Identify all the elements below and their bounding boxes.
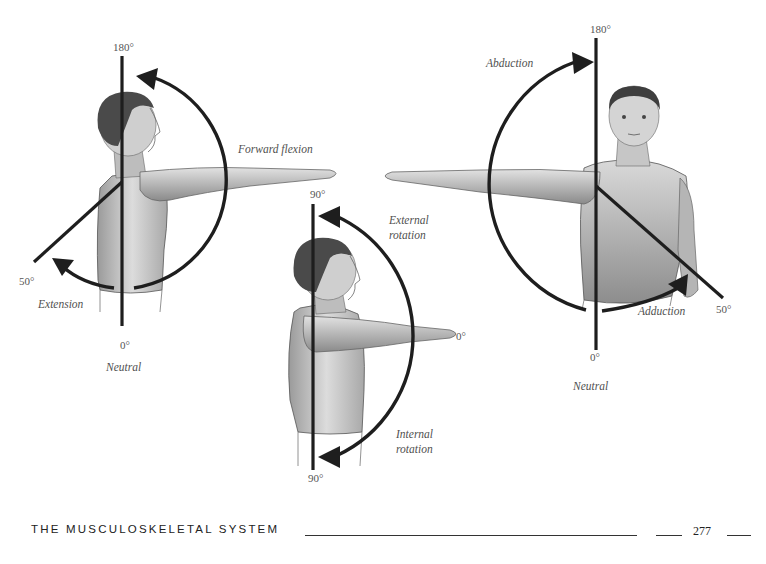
right-top-degree-label: 180° xyxy=(590,24,611,35)
external-rotation-label-line2: rotation xyxy=(389,230,426,242)
right-figure-arm xyxy=(385,169,600,204)
internal-rotation-arrowhead-icon xyxy=(318,446,340,468)
abduction-arrowhead-icon xyxy=(572,52,594,74)
left-top-degree-label: 180° xyxy=(113,42,134,53)
shoulder-range-of-motion-figure xyxy=(0,0,766,564)
forward-flexion-label: Forward flexion xyxy=(238,144,313,156)
middle-figure-arm xyxy=(303,316,456,352)
section-title: THE MUSCULOSKELETAL SYSTEM xyxy=(31,523,279,535)
footer-dash-left xyxy=(656,535,682,536)
right-neutral-label: Neutral xyxy=(573,381,608,393)
adduction-label: Adduction xyxy=(638,306,685,318)
page-footer: THE MUSCULOSKELETAL SYSTEM 277 xyxy=(31,523,731,543)
right-figure-abduction-adduction xyxy=(385,38,723,350)
middle-arm-degree-label: 0° xyxy=(456,331,466,342)
forward-flexion-arrowhead-icon xyxy=(136,68,158,90)
external-rotation-label-line1: External xyxy=(389,215,429,227)
footer-dash-right xyxy=(727,535,751,536)
left-figure-flexion-extension xyxy=(34,56,336,326)
extension-label: Extension xyxy=(38,299,83,311)
right-neutral-degree-label: 0° xyxy=(590,352,600,363)
left-neutral-label: Neutral xyxy=(106,362,141,374)
right-adduction-degree-label: 50° xyxy=(716,304,731,315)
left-extension-degree-label: 50° xyxy=(19,276,34,287)
footer-rule xyxy=(305,535,637,536)
page-number: 277 xyxy=(693,524,711,539)
abduction-label: Abduction xyxy=(486,58,533,70)
left-neutral-degree-label: 0° xyxy=(120,340,130,351)
left-figure-arm xyxy=(140,168,336,201)
middle-bottom-degree-label: 90° xyxy=(308,473,323,484)
internal-rotation-label-line1: Internal xyxy=(396,429,433,441)
internal-rotation-label-line2: rotation xyxy=(396,444,433,456)
middle-top-degree-label: 90° xyxy=(310,189,325,200)
external-rotation-arrowhead-icon xyxy=(318,206,340,228)
